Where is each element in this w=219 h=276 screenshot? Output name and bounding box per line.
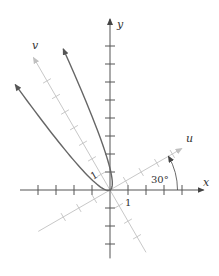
u-axis-tick bbox=[61, 213, 66, 221]
angle-label: 30° bbox=[151, 174, 169, 185]
v-axis-tick bbox=[133, 235, 141, 240]
angle-arc bbox=[168, 156, 177, 190]
v-axis-tick bbox=[88, 157, 96, 162]
v-axis-tick bbox=[43, 79, 51, 84]
v-axis-tick bbox=[70, 125, 78, 129]
v-unit-label: 1 bbox=[89, 169, 100, 182]
x-axis-label: x bbox=[203, 176, 210, 189]
u-axis-tick bbox=[123, 177, 128, 185]
u-axis-tick bbox=[170, 150, 175, 158]
v-axis-tick bbox=[124, 219, 132, 224]
v-axis-label: v bbox=[32, 39, 39, 52]
y-axis-label: y bbox=[116, 18, 124, 31]
v-axis-tick bbox=[97, 172, 105, 177]
u-axis-tick bbox=[77, 204, 82, 212]
v-axis-tick bbox=[115, 203, 123, 208]
v-axis-tick bbox=[52, 94, 60, 99]
u-axis-tick bbox=[92, 195, 97, 203]
v-axis bbox=[34, 57, 147, 252]
v-axis-tick bbox=[61, 110, 69, 115]
u-axis-tick bbox=[155, 159, 160, 167]
u-axis-tick bbox=[139, 168, 144, 176]
x-unit-label: 1 bbox=[125, 197, 131, 208]
y-axis bbox=[105, 19, 115, 258]
u-axis-label: u bbox=[186, 132, 193, 145]
rotated-axes-diagram: x y u v 30° 1 1 bbox=[0, 0, 219, 276]
v-axis-tick bbox=[79, 141, 87, 146]
